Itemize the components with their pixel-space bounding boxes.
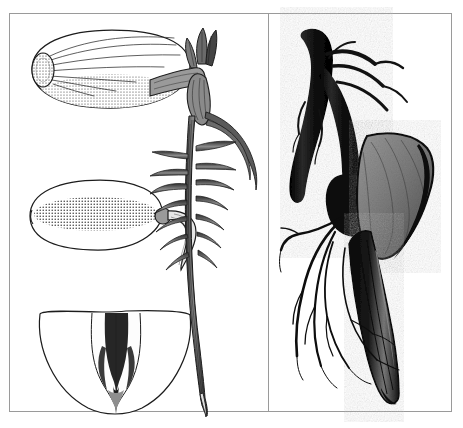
halftone-photograph-panel: [269, 14, 453, 411]
seedling-with-taproot: [150, 20, 268, 420]
seed-hatched-band: [32, 194, 164, 236]
mature-root-specimen: [275, 18, 455, 410]
taproot: [185, 116, 207, 416]
plumule-bud: [186, 28, 217, 68]
botanical-plate: [0, 0, 463, 428]
plate-frame: [9, 13, 452, 412]
lateral-roots-right: [196, 141, 236, 268]
line-engraving-panel: [10, 14, 268, 411]
lateral-roots-left: [150, 151, 189, 270]
